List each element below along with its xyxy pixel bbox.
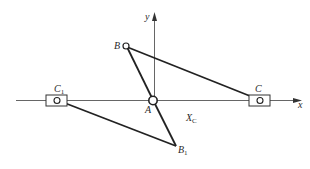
y-axis-label: y [144,11,150,22]
point-label-b1: B1 [178,144,188,157]
point-label-c1: C1 [54,83,65,96]
mechanism-diagram: y x B A C C1 B1 XC [0,0,310,169]
joint-c-icon [257,98,263,104]
point-label-a: A [144,104,152,115]
dimension-label-xc: XC [185,112,197,125]
point-label-b: B [114,40,120,51]
y-axis-arrow-icon [152,12,157,21]
link-rod-bc [127,47,260,100]
link-rod-b1c1 [57,100,176,146]
joint-b-icon [123,43,129,49]
joint-c1-icon [54,98,60,104]
point-label-c1-sub: 1 [61,88,65,96]
point-label-c: C [255,83,262,94]
dimension-label-xc-sub: C [192,117,197,125]
x-axis-label: x [297,99,303,110]
slider-c1 [46,95,67,106]
slider-c [249,95,270,106]
point-label-b1-sub: 1 [184,149,188,157]
